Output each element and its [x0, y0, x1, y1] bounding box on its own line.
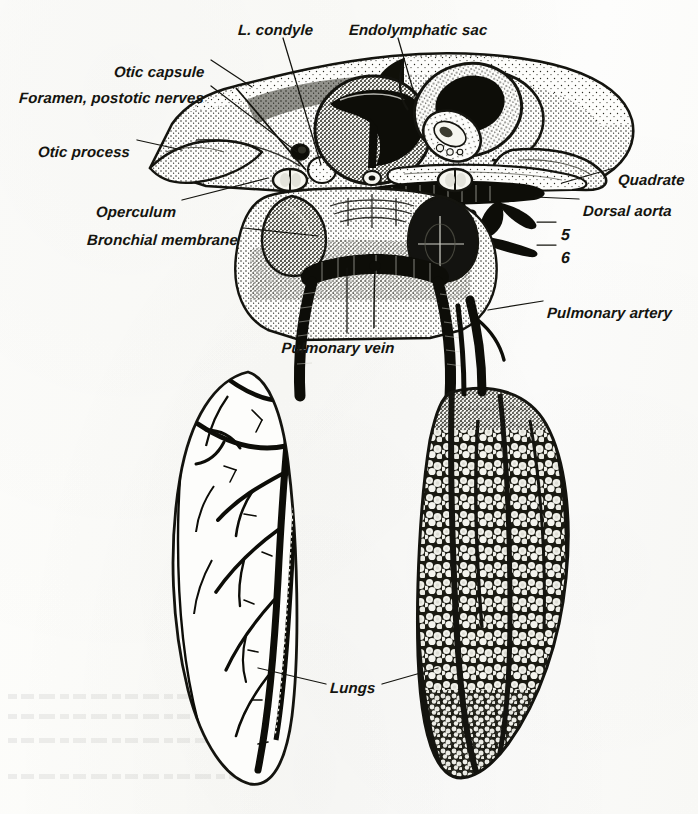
label-aortic-arch-6: 6 [561, 249, 571, 266]
label-pulmonary-vein: Pulmonary vein [278, 340, 399, 356]
leader-otic-capsule [211, 60, 252, 87]
lung-left [173, 360, 306, 784]
leader-pulmonary-artery [488, 301, 543, 310]
label-operculum: Operculum [95, 204, 176, 220]
label-pulmonary-artery: Pulmonary artery [547, 305, 673, 321]
label-dorsal-aorta: Dorsal aorta [583, 203, 673, 219]
label-endolymphatic-sac: Endolymphatic sac [349, 22, 488, 38]
label-bronchial-membrane: Bronchial membrane [87, 232, 239, 248]
label-aortic-arch-5: 5 [561, 226, 571, 243]
label-otic-capsule: Otic capsule [113, 64, 204, 80]
figure-page: L. condyleEndolymphatic sacOtic capsuleF… [0, 0, 698, 814]
label-quadrate: Quadrate [618, 172, 686, 188]
label-otic-process: Otic process [37, 144, 130, 160]
lung-right [400, 370, 600, 800]
leader-dorsal-aorta [535, 197, 579, 199]
label-foramen-postotic: Foramen, postotic nerves [19, 90, 205, 106]
label-lungs: Lungs [330, 680, 376, 696]
label-l-condyle: L. condyle [238, 22, 314, 38]
